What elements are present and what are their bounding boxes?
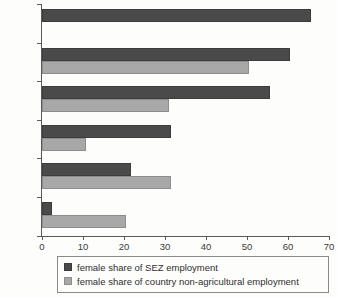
legend-swatch-icon: [64, 277, 72, 285]
x-axis-tick: [288, 236, 289, 240]
legend-item-2: female share of country non-agricultural…: [64, 274, 322, 288]
category-group-ghana: Ghana: [0, 158, 337, 197]
legend-item-1: female share of SEZ employment: [64, 260, 322, 274]
bar-senegal-series2: [42, 138, 86, 151]
x-axis-line: [41, 236, 329, 237]
x-axis-tick-label: 0: [27, 241, 57, 252]
bar-nigeria-series1: [42, 202, 52, 215]
bar-tanzania-series2: [42, 99, 169, 112]
bar-ghana-series1: [42, 163, 131, 176]
x-axis-tick: [165, 236, 166, 240]
legend-swatch-icon: [64, 263, 72, 271]
x-axis-tick: [124, 236, 125, 240]
x-axis-tick: [42, 236, 43, 240]
x-axis-tick-label: 60: [273, 241, 303, 252]
legend-label: female share of SEZ employment: [77, 262, 218, 273]
chart-legend: female share of SEZ employmentfemale sha…: [57, 256, 329, 293]
bar-kenya-series1: [42, 9, 311, 22]
category-group-nigeria: Nigeria: [0, 197, 337, 236]
bar-senegal-series1: [42, 125, 171, 138]
x-axis-tick-label: 20: [109, 241, 139, 252]
bar-chart: 010203040506070 KenyaLesothoTanzaniaSene…: [0, 0, 337, 297]
category-group-lesotho: Lesotho: [0, 43, 337, 82]
category-group-tanzania: Tanzania: [0, 81, 337, 120]
x-axis-tick: [206, 236, 207, 240]
x-axis-tick-label: 10: [68, 241, 98, 252]
x-axis-tick: [329, 236, 330, 240]
x-axis-tick: [247, 236, 248, 240]
bar-ghana-series2: [42, 176, 171, 189]
x-axis-tick-label: 30: [150, 241, 180, 252]
category-group-senegal: Senegal: [0, 120, 337, 159]
x-axis-tick: [83, 236, 84, 240]
category-group-kenya: Kenya: [0, 4, 337, 43]
bar-tanzania-series1: [42, 86, 270, 99]
bar-lesotho-series1: [42, 48, 290, 61]
y-axis-tick: [37, 236, 41, 237]
legend-label: female share of country non-agricultural…: [77, 276, 299, 287]
x-axis-tick-label: 50: [232, 241, 262, 252]
x-axis-tick-label: 70: [314, 241, 337, 252]
x-axis-tick-label: 40: [191, 241, 221, 252]
bar-nigeria-series2: [42, 215, 126, 228]
bar-lesotho-series2: [42, 61, 249, 74]
